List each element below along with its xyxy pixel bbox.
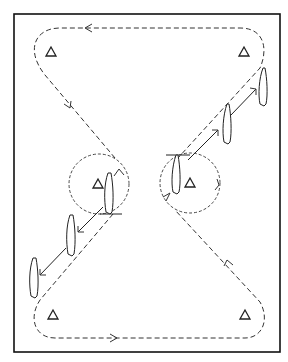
cone-icons [46,47,250,319]
circle-right [160,153,220,213]
pass-line [78,207,103,232]
skater-icon [259,68,267,106]
cone-icon [46,47,56,56]
drill-diagram [0,0,288,362]
arrow-circle-right [215,179,219,190]
pass-line [40,248,66,275]
pass-line [231,89,256,115]
circle-left [69,154,129,214]
cone-icon [48,310,58,319]
skater-icon [223,104,231,144]
cone-icon [239,47,249,56]
skater-icon [30,258,38,298]
skater-icon [67,215,75,256]
arrow-circle-left [114,169,124,176]
skater-icon [105,173,113,214]
pass-line [188,130,218,160]
skater-icons-lower [30,173,113,298]
cone-icon [185,178,195,187]
skater-icons-upper [172,68,267,194]
arrow-circle-right-2 [163,193,170,201]
cone-icon [93,179,103,188]
skater-icon [172,155,180,194]
diagram-canvas [0,0,288,362]
rink-border [14,14,280,352]
cone-icon [240,310,250,319]
